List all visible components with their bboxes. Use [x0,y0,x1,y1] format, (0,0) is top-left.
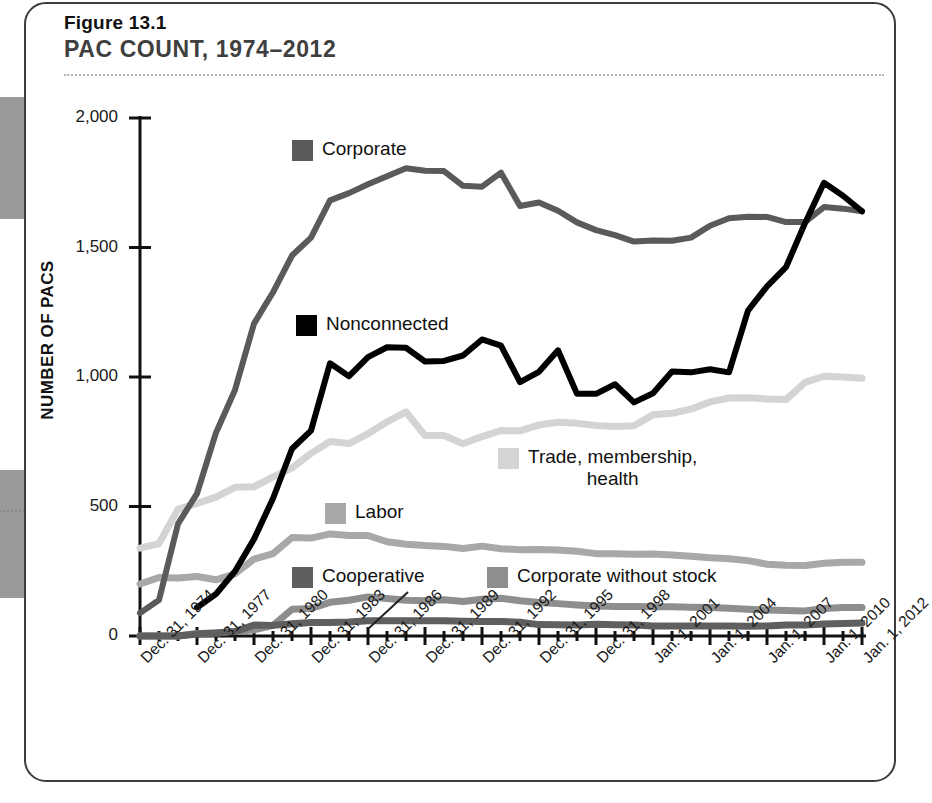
legend-label-corporate-without-stock: Corporate without stock [517,565,717,587]
labor-swatch [325,503,346,524]
y-tick-label: 1,000 [34,366,118,386]
y-tick-label: 1,500 [34,237,118,257]
y-tick-label: 2,000 [34,107,118,127]
legend-label-trade-line1: Trade, membership, [528,446,697,467]
legend-label-trade: Trade, membership, health [528,446,697,489]
legend-item-cooperative: Cooperative [292,565,424,588]
y-tick-label: 0 [34,625,118,645]
corporate-swatch [292,140,313,161]
legend-item-corporate-without-stock: Corporate without stock [487,565,717,588]
legend-label-labor: Labor [355,501,404,523]
legend-item-labor: Labor [325,501,404,524]
y-tick-label: 500 [34,496,118,516]
legend-label-trade-line2: health [587,468,639,489]
cooperative-swatch [292,567,313,588]
legend-label-corporate: Corporate [322,138,407,160]
legend-item-corporate: Corporate [292,138,407,161]
legend-item-nonconnected: Nonconnected [296,313,449,336]
nonconnected-swatch [296,315,317,336]
corporate-without-stock-swatch [487,567,508,588]
legend-label-cooperative: Cooperative [322,565,424,587]
legend-label-nonconnected: Nonconnected [326,313,449,335]
trade-swatch [498,448,519,469]
legend-item-trade: Trade, membership, health [498,446,697,489]
